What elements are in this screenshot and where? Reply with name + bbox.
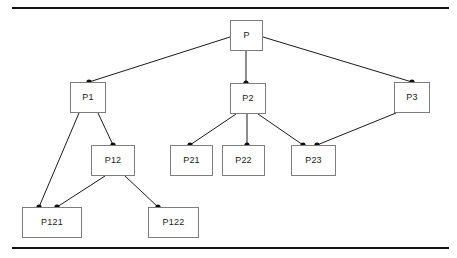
node-p12[interactable]: P12	[91, 145, 135, 176]
process-tree-figure: PP1P2P3P12P21P22P23P121P122	[0, 0, 457, 258]
node-label: P22	[235, 156, 252, 165]
node-p22[interactable]: P22	[222, 145, 265, 176]
node-label: P21	[183, 156, 200, 165]
edge-p2-to-p23	[258, 114, 303, 145]
node-p[interactable]: P	[230, 20, 263, 51]
node-p23[interactable]: P23	[291, 145, 336, 176]
edge-lines	[39, 37, 412, 207]
node-p122[interactable]: P122	[148, 207, 199, 238]
edge-p12-to-p121	[57, 176, 105, 207]
node-p2[interactable]: P2	[230, 83, 266, 114]
node-label: P12	[105, 156, 122, 165]
node-p21[interactable]: P21	[170, 145, 213, 176]
edge-p-to-p1	[89, 37, 230, 82]
node-label: P	[243, 31, 249, 40]
edge-p-to-p3	[263, 37, 412, 82]
node-label: P23	[305, 156, 322, 165]
edge-p2-to-p21	[190, 114, 236, 145]
node-label: P3	[406, 93, 417, 102]
edge-p1-to-p121	[39, 113, 79, 207]
node-label: P121	[41, 218, 63, 227]
node-label: P122	[163, 218, 185, 227]
node-label: P1	[82, 93, 93, 102]
edge-p1-to-p12	[98, 113, 113, 145]
edge-p12-to-p122	[125, 176, 158, 207]
edge-p3-to-p23	[317, 113, 396, 145]
node-p1[interactable]: P1	[70, 82, 106, 113]
node-label: P2	[242, 94, 253, 103]
node-p121[interactable]: P121	[22, 207, 82, 238]
node-p3[interactable]: P3	[394, 82, 430, 113]
